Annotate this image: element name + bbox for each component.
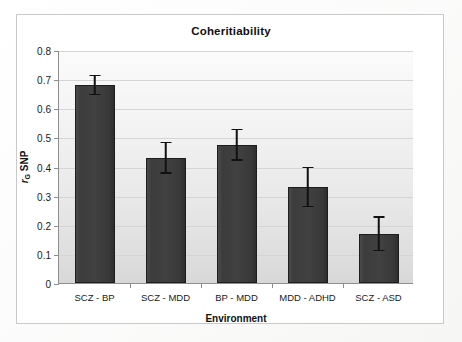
- y-tick-label: 0.8: [37, 46, 51, 57]
- error-bar-cap-bottom: [373, 250, 384, 252]
- y-tick-label: 0.2: [37, 220, 51, 231]
- bar-slot: SCZ - BP: [59, 51, 130, 283]
- bar[interactable]: [146, 158, 186, 283]
- y-axis-title: rG SNP: [19, 151, 31, 184]
- error-bar: [373, 216, 384, 251]
- y-tick-label: 0.4: [37, 162, 51, 173]
- error-bar-cap-top: [302, 167, 313, 169]
- error-bar-line: [94, 75, 96, 95]
- bar-slot: MDD - ADHD: [272, 51, 343, 283]
- chart-title: Coheritiability: [17, 25, 445, 37]
- error-bar-cap-top: [160, 142, 171, 144]
- error-bar-cap-bottom: [302, 206, 313, 208]
- chart-frame: Coheritiability 0.8 0.7 0.6 0.5 0.4 0.3: [16, 14, 444, 324]
- y-tick-label: 0: [45, 279, 51, 290]
- error-bar-line: [378, 216, 380, 251]
- bar-slot: BP - MDD: [201, 51, 272, 283]
- x-tick-mark: [343, 283, 344, 288]
- figure-canvas: Coheritiability 0.8 0.7 0.6 0.5 0.4 0.3: [0, 0, 462, 342]
- x-category-label: SCZ - BP: [74, 292, 114, 303]
- error-bar-cap-top: [89, 75, 100, 77]
- x-axis-title: Environment: [205, 313, 266, 324]
- error-bar: [160, 142, 171, 174]
- error-bar: [302, 167, 313, 208]
- error-bar-cap-top: [231, 129, 242, 131]
- bar[interactable]: [75, 85, 115, 283]
- error-bar-cap-bottom: [89, 94, 100, 96]
- error-bar-line: [307, 167, 309, 208]
- y-tick-label: 0.6: [37, 104, 51, 115]
- x-tick-mark: [130, 283, 131, 288]
- y-tick-label: 0.1: [37, 249, 51, 260]
- x-category-label: SCZ - ASD: [355, 292, 401, 303]
- y-tick-label: 0.5: [37, 133, 51, 144]
- error-bar: [89, 75, 100, 95]
- error-bar-cap-bottom: [160, 172, 171, 174]
- bar[interactable]: [217, 145, 257, 283]
- x-category-label: BP - MDD: [215, 292, 258, 303]
- bar-series: SCZ - BP SCZ - MDD: [59, 51, 413, 283]
- plot-area: 0.8 0.7 0.6 0.5 0.4 0.3 0.2 0.1 0: [58, 51, 413, 284]
- bar-slot: SCZ - ASD: [343, 51, 414, 283]
- error-bar: [231, 129, 242, 161]
- error-bar-cap-top: [373, 216, 384, 218]
- y-tick-label: 0.3: [37, 191, 51, 202]
- x-tick-mark: [201, 283, 202, 288]
- x-tick-mark: [272, 283, 273, 288]
- error-bar-cap-bottom: [231, 159, 242, 161]
- y-tick-mark: [54, 284, 59, 285]
- error-bar-line: [165, 142, 167, 174]
- x-category-label: SCZ - MDD: [141, 292, 190, 303]
- bar-slot: SCZ - MDD: [130, 51, 201, 283]
- error-bar-line: [236, 129, 238, 161]
- y-tick-label: 0.7: [37, 75, 51, 86]
- x-category-label: MDD - ADHD: [279, 292, 335, 303]
